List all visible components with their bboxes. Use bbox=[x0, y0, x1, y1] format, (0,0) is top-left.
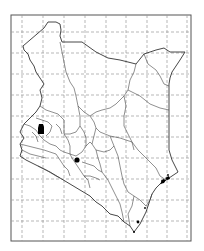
kenya-map bbox=[0, 0, 204, 251]
marker-central-site bbox=[74, 157, 79, 162]
marker-western-site bbox=[38, 124, 44, 134]
map-figure bbox=[0, 0, 204, 251]
